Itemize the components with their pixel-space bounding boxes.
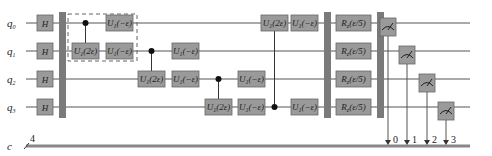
control-dot [216,76,222,82]
u1-label: U1(−ε) [107,46,132,57]
barrier [324,12,331,118]
hadamard-label: H [41,47,49,57]
classical-bit-label: 1 [412,134,417,145]
rz-label: Rz(ε/5) [340,74,365,85]
control-dot [83,20,89,26]
rz-label: Rz(ε/5) [340,18,365,29]
u1-label: U1(−ε) [292,102,317,113]
register-size: 4 [30,133,35,144]
u1-label: U1(−ε) [239,102,264,113]
u1-label: U1(−ε) [239,74,264,85]
controlled-u-label: U1(2ε) [140,74,164,85]
rz-label: Rz(ε/5) [340,46,365,57]
hadamard-label: H [41,75,49,85]
control-dot [149,48,155,54]
qubit-label: q0 [7,17,16,30]
arrow-head-icon [424,140,430,145]
quantum-circuit: q0q1q2q3c4HHHHU1(2ε)U1(2ε)U1(2ε)U1(2ε)U1… [0,0,492,156]
classical-bit-label: 0 [393,134,398,145]
classical-register-label: c [7,140,12,152]
hadamard-label: H [41,19,49,29]
qubit-label: q1 [7,45,16,58]
qubit-label: q2 [7,73,16,86]
qubit-label: q3 [7,101,16,114]
controlled-u-label: U1(2ε) [74,46,98,57]
arrow-head-icon [385,140,391,145]
u1-label: U1(−ε) [173,46,198,57]
controlled-u-label: U1(2ε) [207,102,231,113]
barrier [59,12,66,118]
hadamard-label: H [41,103,49,113]
classical-bit-label: 3 [451,134,456,145]
controlled-u-label: U1(2ε) [263,18,287,29]
control-dot [272,104,278,110]
classical-bit-label: 2 [432,134,437,145]
u1-label: U1(−ε) [107,18,132,29]
u1-label: U1(−ε) [292,18,317,29]
arrow-head-icon [443,140,449,145]
rz-label: Rz(ε/5) [340,102,365,113]
u1-label: U1(−ε) [173,74,198,85]
arrow-head-icon [404,140,410,145]
